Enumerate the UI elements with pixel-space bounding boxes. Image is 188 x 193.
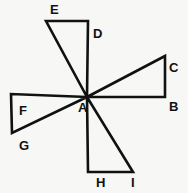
vertex-label-h: H [96,176,105,189]
vertex-label-i: I [131,176,135,189]
upper-triangle-ADE [46,21,88,97]
vertex-label-b: B [169,100,178,113]
vertex-label-d: D [93,27,102,40]
vertex-label-g: G [19,139,29,152]
vertex-label-f: F [19,104,27,117]
geometry-figure: E D C B A F G H I [0,0,188,193]
vertex-label-e: E [50,3,59,16]
vertex-label-a: A [78,101,87,114]
lower-triangle-AHI [87,97,133,172]
vertex-label-c: C [169,61,178,74]
right-triangle-ABC [87,56,165,97]
